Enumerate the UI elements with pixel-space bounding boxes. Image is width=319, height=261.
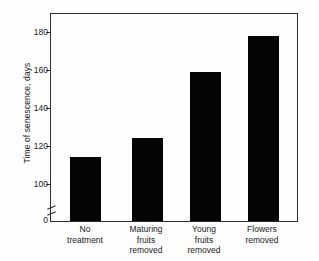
x-label-flowers-removed: Flowers removed: [229, 224, 295, 245]
x-axis-labels: No treatment Maturing fruits removed You…: [50, 224, 298, 261]
x-label-maturing-fruits-removed: Maturing fruits removed: [113, 224, 179, 256]
bar-young-fruits-removed: [190, 72, 221, 221]
x-label-young-fruits-removed: Young fruits removed: [171, 224, 237, 256]
bar-no-treatment: [70, 157, 101, 221]
plot-area: 180 160 140 120 100 0: [50, 13, 298, 222]
bar-flowers-removed: [248, 36, 279, 221]
y-tick-label: 160: [34, 66, 48, 75]
bar-chart-figure: Time of senescence, days 180 160 140 120…: [0, 0, 319, 261]
x-label-no-treatment: No treatment: [52, 224, 118, 245]
axis-break-icon: [47, 204, 56, 217]
y-tick-label: 100: [34, 180, 48, 189]
y-tick-label: 180: [34, 28, 48, 37]
y-tick-label: 140: [34, 104, 48, 113]
y-tick-label: 120: [34, 142, 48, 151]
y-axis-title: Time of senescence, days: [22, 28, 32, 198]
y-zero-label: 0: [43, 216, 48, 225]
bar-maturing-fruits-removed: [132, 138, 163, 221]
